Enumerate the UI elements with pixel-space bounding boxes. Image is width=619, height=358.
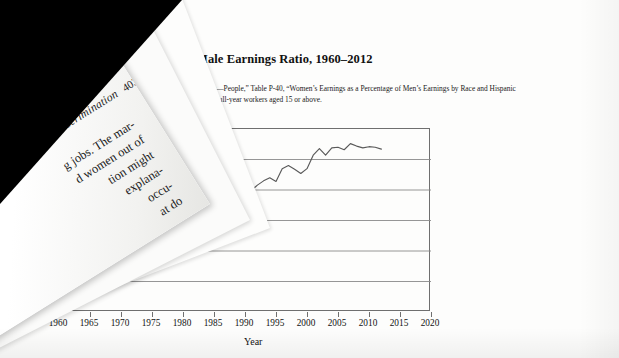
x-axis-tick-label: 1970 [111,318,130,328]
x-axis-tick [369,312,370,317]
x-axis-tick-label: 2005 [328,318,347,328]
x-axis-tick-label: 1975 [142,318,161,328]
x-axis-tick-label: 1965 [80,318,99,328]
x-axis-tick [90,312,91,317]
x-axis-tick-label: 1995 [266,318,285,328]
book-page-photo: Male Earnings Ratio, 1960–2012 Tables—Pe… [0,0,619,358]
x-axis-tick-label: 1985 [204,318,223,328]
x-axis-tick [214,312,215,317]
x-axis-tick [121,312,122,317]
x-axis-tick [307,312,308,317]
x-axis-tick-label: 1980 [173,318,192,328]
x-axis-tick-label: 2015 [390,318,409,328]
figure-source-line-1: Tables—People,” Table P-40, “Women’s Ear… [197,84,516,93]
x-axis-title: Year [244,336,262,347]
x-axis-tick [245,312,246,317]
x-axis-tick [431,312,432,317]
x-axis-tick [152,312,153,317]
x-axis-tick-label: 2000 [297,318,316,328]
figure-title: Male Earnings Ratio, 1960–2012 [196,52,373,67]
x-axis-tick-label: 2010 [359,318,378,328]
x-axis-tick [276,312,277,317]
x-axis-tick-label: 2020 [421,318,440,328]
x-axis-tick [338,312,339,317]
x-axis-tick [183,312,184,317]
x-axis-tick-label: 1990 [235,318,254,328]
x-axis-tick [400,312,401,317]
